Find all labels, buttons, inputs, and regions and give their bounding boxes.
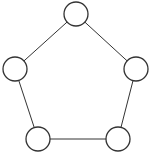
node-n3 xyxy=(106,127,130,151)
graph-diagram xyxy=(0,0,150,166)
edge-n1-n2 xyxy=(85,22,127,61)
node-n5 xyxy=(3,57,27,81)
edge-n5-n1 xyxy=(24,22,67,61)
node-n1 xyxy=(64,2,88,26)
edge-n4-n5 xyxy=(19,80,35,127)
node-n4 xyxy=(26,127,50,151)
edges-group xyxy=(19,22,133,139)
nodes-group xyxy=(3,2,148,151)
edge-n2-n3 xyxy=(121,81,133,128)
node-n2 xyxy=(124,57,148,81)
